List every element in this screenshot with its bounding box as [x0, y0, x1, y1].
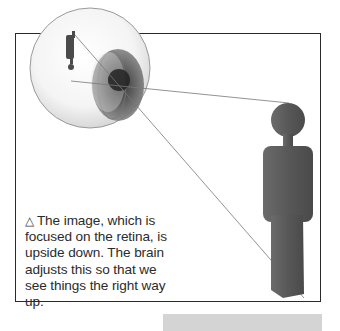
person-figure-icon	[263, 103, 313, 298]
caption-line-4: adjusts this so that we	[25, 262, 156, 277]
caption-line-2: focused on the retina, is	[25, 229, 167, 244]
bottom-gray-bar	[163, 314, 322, 331]
triangle-marker-icon: △	[25, 214, 34, 228]
caption-line-5: see things the right way	[25, 278, 165, 293]
eyeball-icon	[30, 8, 150, 128]
caption-line-6: up.	[25, 294, 44, 309]
figure-caption: △The image, which is focused on the reti…	[25, 213, 185, 310]
caption-line-3: upside down. The brain	[25, 245, 164, 260]
caption-line-1: The image, which is	[37, 213, 155, 228]
